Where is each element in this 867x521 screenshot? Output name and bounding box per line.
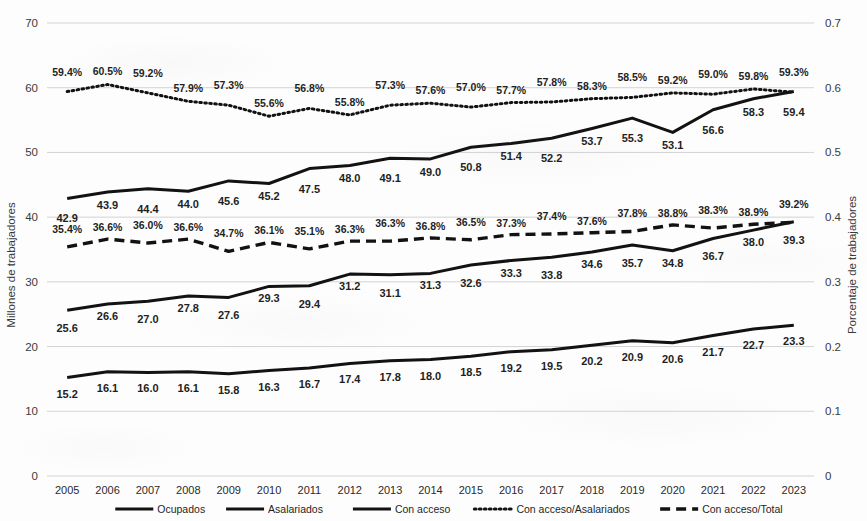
data-label: 15.8 — [218, 384, 239, 396]
data-label: 59.4% — [52, 66, 82, 78]
data-label: 36.6% — [173, 221, 203, 233]
data-label: 59.2% — [658, 74, 688, 86]
data-label: 27.0 — [137, 313, 158, 325]
x-axis-tick: 2020 — [660, 484, 684, 496]
data-label: 31.3 — [420, 279, 441, 291]
x-axis-tick: 2017 — [539, 484, 563, 496]
data-label: 36.5% — [456, 216, 486, 228]
data-label: 38.8% — [658, 207, 688, 219]
data-label: 36.0% — [133, 219, 163, 231]
data-label: 57.7% — [496, 84, 526, 96]
data-label: 59.8% — [739, 70, 769, 82]
legend-label[interactable]: Con acceso/Total — [702, 503, 783, 515]
data-label: 35.1% — [295, 225, 325, 237]
data-label: 57.8% — [537, 76, 567, 88]
data-label: 31.2 — [339, 280, 360, 292]
data-label: 57.0% — [456, 81, 486, 93]
data-label: 37.8% — [617, 207, 647, 219]
legend-label[interactable]: Con acceso/Asalariados — [516, 503, 629, 515]
data-label: 20.2 — [581, 355, 602, 367]
data-label: 56.8% — [295, 82, 325, 94]
data-label: 22.7 — [743, 339, 764, 351]
data-label: 38.3% — [698, 204, 728, 216]
data-label: 49.1 — [379, 172, 400, 184]
x-axis-tick: 2023 — [782, 484, 806, 496]
data-label: 45.2 — [258, 190, 279, 202]
data-label: 37.3% — [496, 217, 526, 229]
legend-label[interactable]: Ocupados — [157, 503, 205, 515]
data-label: 58.3 — [743, 106, 764, 118]
y-axis-title: Millones de trabajadores — [5, 202, 17, 328]
data-label: 59.4 — [783, 106, 805, 118]
x-axis-tick: 2007 — [136, 484, 160, 496]
data-label: 19.2 — [501, 362, 522, 374]
data-label: 16.7 — [299, 378, 320, 390]
y2-axis-tick: 0.1 — [825, 405, 841, 417]
chart-container: 01020304050607000.10.20.30.40.50.60.7Mil… — [0, 0, 867, 521]
data-label: 43.9 — [97, 199, 118, 211]
y-axis-tick: 10 — [25, 405, 38, 417]
data-label: 47.5 — [299, 183, 320, 195]
data-label: 20.6 — [662, 353, 683, 365]
data-label: 53.7 — [581, 135, 602, 147]
y-axis-tick: 30 — [25, 276, 38, 288]
y-axis-tick: 0 — [32, 470, 38, 482]
data-label: 20.9 — [622, 351, 643, 363]
data-label: 32.6 — [460, 277, 481, 289]
data-label: 34.6 — [581, 258, 602, 270]
data-label: 57.6% — [416, 84, 446, 96]
x-axis-tick: 2013 — [378, 484, 402, 496]
data-label: 59.0% — [698, 68, 728, 80]
data-label: 19.5 — [541, 360, 562, 372]
data-label: 55.3 — [622, 132, 643, 144]
x-axis-tick: 2006 — [95, 484, 119, 496]
x-axis-tick: 2011 — [298, 484, 322, 496]
data-label: 34.7% — [214, 227, 244, 239]
y2-axis-tick: 0.7 — [825, 17, 841, 29]
data-label: 18.5 — [460, 366, 481, 378]
legend-label[interactable]: Con acceso — [395, 503, 451, 515]
data-label: 58.5% — [617, 71, 647, 83]
data-label: 34.8 — [662, 257, 683, 269]
x-axis-tick: 2019 — [620, 484, 644, 496]
data-label: 36.7 — [702, 250, 723, 262]
data-label: 25.6 — [56, 322, 77, 334]
data-label: 36.1% — [254, 224, 284, 236]
data-label: 50.8 — [460, 161, 481, 173]
data-label: 56.6 — [702, 124, 723, 136]
data-label: 33.3 — [501, 267, 522, 279]
data-label: 52.2 — [541, 152, 562, 164]
data-label: 44.4 — [137, 203, 159, 215]
data-label: 38.9% — [739, 206, 769, 218]
data-label: 58.3% — [577, 80, 607, 92]
data-label: 59.3% — [779, 66, 809, 78]
data-label: 27.8 — [178, 302, 199, 314]
chart-legend: OcupadosAsalariadosCon accesoCon acceso/… — [115, 503, 782, 515]
y2-axis-tick: 0.5 — [825, 146, 841, 158]
data-label: 27.6 — [218, 309, 239, 321]
x-axis-tick: 2018 — [580, 484, 604, 496]
data-label: 36.3% — [335, 223, 365, 235]
data-label: 37.4% — [537, 210, 567, 222]
data-label: 55.8% — [335, 96, 365, 108]
x-axis-tick: 2021 — [701, 484, 725, 496]
x-axis-tick: 2014 — [418, 484, 442, 496]
data-label: 39.3 — [783, 234, 804, 246]
y2-axis-tick: 0.3 — [825, 276, 841, 288]
x-axis-tick: 2010 — [257, 484, 281, 496]
x-axis-tick: 2008 — [176, 484, 200, 496]
data-label: 18.0 — [420, 370, 441, 382]
legend-label[interactable]: Asalariados — [268, 503, 323, 515]
x-axis-tick: 2012 — [338, 484, 362, 496]
data-label: 36.3% — [375, 217, 405, 229]
data-label: 57.3% — [214, 79, 244, 91]
data-label: 15.2 — [56, 388, 77, 400]
data-label: 60.5% — [93, 65, 123, 77]
x-axis-tick: 2009 — [216, 484, 240, 496]
data-label: 45.6 — [218, 195, 239, 207]
data-label: 29.3 — [258, 292, 279, 304]
y2-axis-tick: 0.2 — [825, 341, 841, 353]
data-label: 26.6 — [97, 310, 118, 322]
data-label: 23.3 — [783, 335, 804, 347]
x-axis-tick: 2016 — [499, 484, 523, 496]
